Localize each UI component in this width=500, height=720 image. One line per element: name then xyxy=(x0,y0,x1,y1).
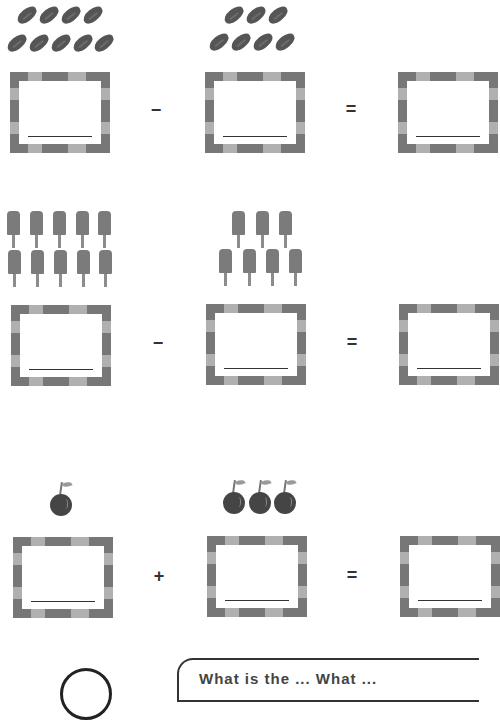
bean-icon xyxy=(92,31,117,54)
bean-icon xyxy=(244,3,269,26)
bean-icon xyxy=(49,31,74,54)
answer-box-1a[interactable] xyxy=(10,72,110,153)
mascot-face-icon xyxy=(60,668,112,720)
bean-icon xyxy=(222,3,247,26)
answer-box-3a[interactable] xyxy=(13,537,113,618)
popsicle-icon xyxy=(31,250,44,287)
answer-line[interactable] xyxy=(418,600,482,601)
bubble-text: What is the ... What ... xyxy=(199,670,377,687)
bean-icon xyxy=(266,3,291,26)
answer-line[interactable] xyxy=(416,136,480,137)
bean-icon xyxy=(59,3,84,26)
popsicle-icon xyxy=(232,211,245,248)
popsicle-icon xyxy=(289,249,302,286)
popsicle-icon xyxy=(53,211,66,248)
bean-icon xyxy=(15,3,40,26)
bean-icon xyxy=(273,30,298,53)
popsicle-icon xyxy=(77,250,90,287)
speech-bubble: What is the ... What ... xyxy=(177,658,479,702)
equals-operator: = xyxy=(342,565,362,585)
popsicle-icon xyxy=(243,249,256,286)
bean-icon xyxy=(71,31,96,54)
answer-box-2-result[interactable] xyxy=(399,304,499,385)
bean-icon xyxy=(207,30,232,53)
popsicle-icon xyxy=(54,250,67,287)
minus-operator: − xyxy=(146,100,166,120)
answer-box-1b[interactable] xyxy=(205,72,305,153)
bean-icon xyxy=(251,30,276,53)
popsicle-icon xyxy=(99,250,112,287)
popsicle-icon xyxy=(256,211,269,248)
cherry-icon xyxy=(273,478,297,516)
cherry-icon xyxy=(49,480,73,518)
answer-line[interactable] xyxy=(223,136,287,137)
bean-icon xyxy=(5,31,30,54)
popsicle-icon xyxy=(219,249,232,286)
answer-line[interactable] xyxy=(417,368,481,369)
equals-operator: = xyxy=(341,99,361,119)
answer-box-3-result[interactable] xyxy=(400,536,500,617)
popsicle-icon xyxy=(76,211,89,248)
popsicle-icon xyxy=(30,211,43,248)
cherry-icon xyxy=(248,478,272,516)
bean-icon xyxy=(37,3,62,26)
answer-box-2a[interactable] xyxy=(11,305,111,386)
cherry-icon xyxy=(222,478,246,516)
bean-icon xyxy=(27,31,52,54)
answer-line[interactable] xyxy=(31,601,95,602)
popsicle-icon xyxy=(7,211,20,248)
popsicle-icon xyxy=(8,250,21,287)
answer-line[interactable] xyxy=(29,369,93,370)
answer-box-1-result[interactable] xyxy=(398,72,498,153)
bean-icon xyxy=(229,30,254,53)
popsicle-icon xyxy=(266,249,279,286)
plus-operator: + xyxy=(149,566,169,586)
answer-line[interactable] xyxy=(224,368,288,369)
answer-box-2b[interactable] xyxy=(206,304,306,385)
minus-operator: − xyxy=(148,333,168,353)
equals-operator: = xyxy=(342,332,362,352)
popsicle-icon xyxy=(98,211,111,248)
answer-box-3b[interactable] xyxy=(207,536,307,617)
answer-line[interactable] xyxy=(28,136,92,137)
bean-icon xyxy=(81,3,106,26)
answer-line[interactable] xyxy=(225,600,289,601)
popsicle-icon xyxy=(279,211,292,248)
